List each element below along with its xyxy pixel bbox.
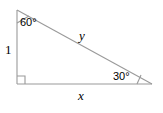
side-label-horizontal-leg: x [78, 89, 84, 102]
angle-label-bottom-right: 30° [113, 71, 130, 82]
right-angle-marker-icon [17, 76, 25, 84]
side-label-vertical-leg: 1 [5, 43, 12, 56]
triangle-side-hypotenuse [17, 10, 152, 84]
angle-label-top-left: 60° [20, 17, 37, 28]
triangle-figure: 60° 30° y x 1 [0, 0, 163, 113]
side-label-hypotenuse: y [79, 29, 85, 42]
